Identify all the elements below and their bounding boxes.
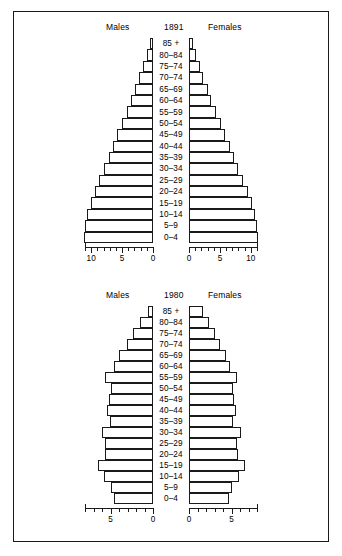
female-half [189, 95, 330, 106]
age-group-label: 20–24 [153, 186, 189, 197]
bar-male [135, 84, 153, 95]
bar-female [189, 361, 230, 372]
bar-male [114, 493, 153, 504]
pyramid-row: 65–69 [14, 350, 328, 361]
pyramid-row: 80–84 [14, 49, 328, 60]
male-half [14, 394, 153, 405]
age-group-label: 50–54 [153, 383, 189, 394]
female-half [189, 209, 330, 220]
pyramid-1980-plot: 85 +80–8475–7470–7465–6960–6455–5950–544… [14, 306, 328, 504]
age-group-label: 65–69 [153, 350, 189, 361]
pyramid-row: 25–29 [14, 175, 328, 186]
male-half [14, 197, 153, 208]
axis-tick [251, 247, 252, 253]
pyramid-row: 85 + [14, 306, 328, 317]
axis-tick [201, 247, 202, 251]
pyramid-row: 15–19 [14, 460, 328, 471]
male-half [14, 61, 153, 72]
female-half [189, 220, 330, 231]
axis-tick [104, 247, 105, 251]
bar-female [189, 118, 221, 129]
pyramid-row: 85 + [14, 38, 328, 49]
axis-tick [226, 247, 227, 251]
age-group-label: 30–34 [153, 427, 189, 438]
bar-female [189, 427, 241, 438]
female-half [189, 471, 330, 482]
bar-male [105, 438, 153, 449]
age-group-label: 85 + [153, 306, 189, 317]
axis-tick [189, 247, 190, 253]
female-half [189, 186, 330, 197]
female-half [189, 416, 330, 427]
age-group-label: 5–9 [153, 220, 189, 231]
axis-tick-label: 0 [187, 515, 192, 524]
axis-tick [238, 247, 239, 251]
male-half [14, 416, 153, 427]
bar-male [117, 129, 153, 140]
bar-female [189, 405, 236, 416]
axis-tick-label: 10 [87, 254, 96, 263]
axis-tick [153, 247, 154, 253]
male-half [14, 383, 153, 394]
axis-tick-label: 0 [151, 515, 156, 524]
bar-female [189, 186, 248, 197]
axis-tick [214, 247, 215, 251]
bar-male [95, 186, 153, 197]
axis-tick-label: 5 [218, 254, 223, 263]
bar-female [189, 416, 233, 427]
bar-female [189, 95, 211, 106]
bar-male [105, 449, 153, 460]
pyramid-row: 75–74 [14, 61, 328, 72]
pyramid-1980-axis: 0055 [14, 508, 330, 530]
pyramid-row: 35–39 [14, 416, 328, 427]
age-group-label: 15–19 [153, 197, 189, 208]
pyramid-1891-axis: 00551010 [14, 247, 330, 269]
age-group-label: 15–19 [153, 460, 189, 471]
pyramid-row: 0–4 [14, 232, 328, 243]
female-half [189, 372, 330, 383]
bar-male [140, 317, 153, 328]
pyramid-row: 45–49 [14, 129, 328, 140]
bar-female [189, 209, 255, 220]
bar-male [114, 361, 153, 372]
female-half [189, 383, 330, 394]
axis-tick [111, 508, 112, 514]
bar-female [189, 175, 243, 186]
bar-female [189, 372, 237, 383]
male-half [14, 49, 153, 60]
pyramid-1980-header: Males 1980 Females [14, 290, 328, 306]
pyramid-row: 35–39 [14, 152, 328, 163]
age-group-label: 25–29 [153, 175, 189, 186]
female-half [189, 361, 330, 372]
male-half [14, 141, 153, 152]
age-group-label: 40–44 [153, 405, 189, 416]
axis-tick [240, 508, 241, 512]
axis-tick [220, 247, 221, 253]
pyramid-1891-plot: 85 +80–8475–7470–7465–6960–6455–5950–544… [14, 38, 328, 243]
male-half [14, 232, 153, 243]
bar-male [131, 95, 153, 106]
male-half [14, 72, 153, 83]
axis-tick [141, 247, 142, 251]
pyramid-row: 50–54 [14, 118, 328, 129]
male-half [14, 405, 153, 416]
bar-male [133, 328, 153, 339]
pyramid-1891-males-label: Males [106, 22, 129, 32]
age-group-label: 55–59 [153, 106, 189, 117]
male-half [14, 471, 153, 482]
axis-tick [249, 508, 250, 512]
pyramid-row: 55–59 [14, 106, 328, 117]
male-half [14, 350, 153, 361]
bar-female [189, 449, 238, 460]
age-group-label: 25–29 [153, 438, 189, 449]
pyramid-row: 10–14 [14, 471, 328, 482]
male-half [14, 84, 153, 95]
bar-female [189, 197, 252, 208]
bar-female [189, 306, 203, 317]
axis-tick [195, 247, 196, 251]
bar-male [113, 141, 153, 152]
male-half [14, 427, 153, 438]
female-half [189, 49, 330, 60]
age-group-label: 80–84 [153, 317, 189, 328]
bar-female [189, 106, 216, 117]
